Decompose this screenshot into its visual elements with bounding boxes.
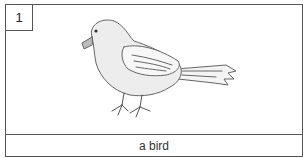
card-caption: a bird bbox=[6, 134, 302, 156]
flashcard: 1 a bird bbox=[5, 4, 303, 157]
bird-illustration bbox=[66, 7, 251, 131]
card-number: 1 bbox=[6, 5, 33, 31]
